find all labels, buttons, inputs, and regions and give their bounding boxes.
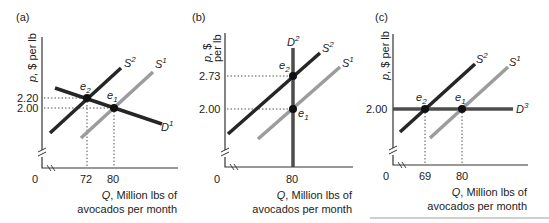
panel-a-x-axis-label-line2: avocados per month [77, 203, 177, 215]
panel-b-xtick-80: 80 [286, 173, 298, 185]
panel-a-equilibrium-e1 [110, 104, 118, 112]
panel-a-s2-label: S2 [124, 55, 136, 69]
panel-c-xtick-80: 80 [456, 170, 468, 182]
panel-a-x-axis-label-line1: Q, Million lbs of [102, 189, 178, 201]
panel-b-s2-label: S2 [322, 40, 334, 54]
panel-a-e2-label: e2 [80, 80, 91, 95]
panel-a-y-axis-label: p, $ per lb [26, 33, 38, 83]
panel-c-equilibrium-e2 [421, 105, 429, 113]
panel-c-e1-label: e1 [455, 91, 466, 106]
panel-c-ytick-2-00: 2.00 [366, 103, 387, 115]
panel-a-xtick-72: 72 [80, 173, 92, 185]
panel-a-origin: 0 [32, 173, 38, 185]
panel-c-xtick-69: 69 [419, 170, 431, 182]
panel-b-ytick-2-00: 2.00 [199, 103, 220, 115]
panel-a-x-axis [42, 157, 178, 168]
panel-b-supply-s1-curve [258, 67, 340, 139]
panel-c-y-axis-label: p, $ per lb [379, 31, 391, 81]
panel-b-y-axis-label-line2: per lb [211, 34, 223, 62]
panel-c-e2-label: e2 [416, 91, 427, 106]
panel-b-equilibrium-e2 [289, 72, 297, 80]
panel-b-origin: 0 [214, 173, 220, 185]
panel-a-xtick-80: 80 [107, 173, 119, 185]
panel-c-x-axis-label-line2: avocados per month [427, 200, 527, 212]
panel-c-x-axis [393, 155, 528, 165]
panel-c-s1-label: S1 [509, 54, 521, 68]
panel-b-x-axis [225, 157, 353, 167]
panel-a-supply-s1-curve [81, 72, 153, 138]
panel-c-d3-label: D3 [516, 101, 529, 115]
panel-c-origin: 0 [383, 170, 389, 182]
panel-b-x-axis-label-line1: Q, Million lbs of [277, 189, 353, 201]
panel-a-ytick-2-00: 2.00 [17, 102, 38, 114]
panel-b-title: (b) [192, 11, 205, 23]
panel-b-e1-label: e1 [298, 107, 309, 122]
panel-c-x-axis-label-line1: Q, Million lbs of [452, 186, 528, 198]
panel-a-s1-label: S1 [155, 56, 167, 70]
panel-a-title: (a) [16, 11, 29, 23]
avocado-market-diagram: (a) p, $ per lb 2.20 2.00 72 80 0 S2 S1 … [0, 0, 549, 223]
panel-c-supply-s1-curve [430, 67, 508, 138]
panel-b-e2-label: e2 [279, 59, 290, 74]
panel-b-x-axis-label-line2: avocados per month [252, 203, 352, 215]
panel-a-d1-label: D1 [161, 119, 173, 133]
panel-b-equilibrium-e1 [289, 105, 297, 113]
panel-b-ytick-2-73: 2.73 [199, 70, 220, 82]
panel-c-s2-label: S2 [476, 51, 488, 65]
panel-a: (a) p, $ per lb 2.20 2.00 72 80 0 S2 S1 … [16, 11, 178, 215]
panel-a-e1-label: e1 [107, 89, 118, 104]
panel-a-equilibrium-e2 [83, 94, 91, 102]
panel-c: (c) p, $ per lb 2.00 69 80 0 S2 S1 D3 e2… [366, 11, 529, 212]
panel-b-d2-label: D2 [287, 34, 300, 48]
panel-b-s1-label: S1 [342, 55, 354, 69]
panel-c-equilibrium-e1 [458, 105, 466, 113]
panel-c-title: (c) [375, 11, 388, 23]
panel-b: (b) p, $ per lb 2.73 2.00 80 0 D2 S2 S1 … [192, 11, 354, 215]
